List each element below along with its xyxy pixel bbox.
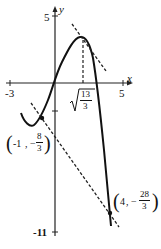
point-a-x: -1 <box>13 139 21 149</box>
comma-minus: , − <box>126 197 137 207</box>
x-tick-5: 5 <box>119 88 125 99</box>
vertex-x-label: 13 3 <box>69 87 95 113</box>
vertex-x-denominator: 3 <box>83 102 88 111</box>
point-a-numerator: 8 <box>37 132 42 141</box>
x-axis <box>6 80 133 86</box>
paren-close: ) <box>152 191 159 211</box>
x-tick-neg3: -3 <box>5 88 14 99</box>
y-axis <box>52 6 58 236</box>
point-b-marker <box>108 211 112 215</box>
point-b-label: ( 4 , − 28 3 ) <box>113 188 161 216</box>
y-tick-5: 5 <box>44 12 50 23</box>
paren-close: ) <box>44 133 51 153</box>
point-b-denominator: 3 <box>142 202 147 211</box>
point-b-x: 4 <box>120 197 125 207</box>
y-axis-label: y <box>59 4 64 15</box>
tangent-line-top <box>72 24 106 71</box>
paren-open: ( <box>113 191 120 211</box>
point-a-denominator: 3 <box>37 144 42 153</box>
x-axis-label: x <box>127 73 132 84</box>
comma-minus: , − <box>25 139 36 149</box>
y-tick-neg11: -11 <box>33 227 47 238</box>
point-a-label: ( -1 , − 8 3 ) <box>6 130 52 158</box>
paren-open: ( <box>6 133 13 153</box>
point-b-numerator: 28 <box>140 190 149 199</box>
vertex-x-numerator: 13 <box>81 90 90 99</box>
point-a-marker <box>40 116 44 120</box>
